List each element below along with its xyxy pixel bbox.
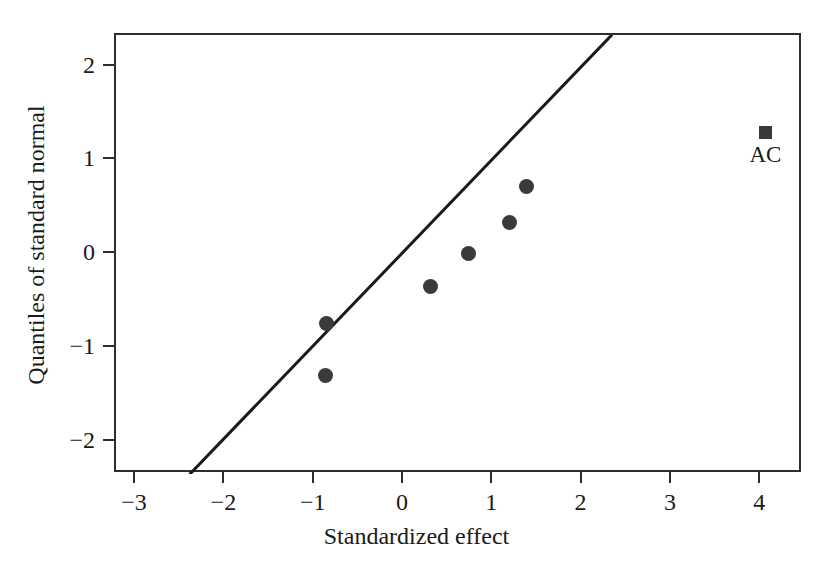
plot-frame <box>114 33 801 472</box>
y-tick-mark <box>103 345 114 347</box>
data-point-label: AC <box>725 143 805 166</box>
reference-line <box>190 35 612 474</box>
x-tick-mark <box>580 472 582 483</box>
data-point-circle <box>318 368 333 383</box>
x-tick-label: 1 <box>461 490 521 514</box>
y-tick-mark <box>103 157 114 159</box>
x-tick-label: −2 <box>193 490 253 514</box>
y-axis-title-wrapper: Quantiles of standard normal <box>23 25 53 465</box>
data-point-circle <box>461 246 476 261</box>
x-tick-label: −3 <box>104 490 164 514</box>
y-tick-mark <box>103 251 114 253</box>
y-tick-mark <box>103 64 114 66</box>
x-tick-label: 2 <box>551 490 611 514</box>
x-tick-mark <box>401 472 403 483</box>
x-tick-label: 4 <box>729 490 789 514</box>
x-axis-title: Standardized effect <box>0 523 833 550</box>
y-tick-mark <box>103 439 114 441</box>
x-tick-mark <box>222 472 224 483</box>
x-tick-mark <box>490 472 492 483</box>
plot-canvas <box>116 35 803 474</box>
x-tick-label: 0 <box>372 490 432 514</box>
x-tick-mark <box>669 472 671 483</box>
x-tick-mark <box>133 472 135 483</box>
x-tick-label: 3 <box>640 490 700 514</box>
data-point-square <box>759 126 772 139</box>
data-point-circle <box>519 179 534 194</box>
x-tick-label: −1 <box>283 490 343 514</box>
x-tick-mark <box>758 472 760 483</box>
y-axis-title: Quantiles of standard normal <box>23 25 50 465</box>
x-tick-mark <box>312 472 314 483</box>
qq-normal-probability-plot: −3−2−101234 −2−1012 AC Standardized effe… <box>0 0 833 570</box>
